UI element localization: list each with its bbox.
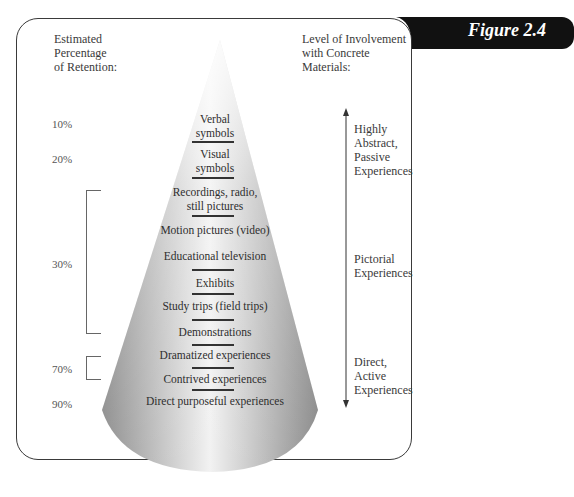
layer-visual-symbols: Visual symbols	[115, 147, 315, 175]
layer-label: Contrived experiences	[115, 372, 315, 386]
layer-label: symbols	[115, 161, 315, 175]
layer-label: Direct purposeful experiences	[95, 394, 335, 408]
retention-20: 20%	[52, 153, 72, 165]
layer-separator	[192, 389, 234, 391]
involvement-label: Highly	[354, 122, 413, 136]
layer-label: Verbal	[115, 112, 315, 126]
layer-label: Motion pictures (video)	[115, 223, 315, 237]
layer-dramatized: Dramatized experiences	[115, 348, 315, 362]
layer-label: Study trips (field trips)	[115, 299, 315, 313]
retention-70: 70%	[52, 363, 72, 375]
retention-30: 30%	[52, 258, 72, 270]
layer-separator	[192, 367, 234, 369]
layer-separator	[192, 319, 234, 321]
involvement-direct: Direct, Active Experiences	[354, 355, 413, 397]
involvement-label: Active	[354, 369, 413, 383]
layer-separator	[192, 215, 234, 217]
involvement-label: Passive	[354, 150, 413, 164]
layer-label: still pictures	[115, 199, 315, 213]
layer-separator	[192, 177, 234, 179]
involvement-label: Abstract,	[354, 136, 413, 150]
layer-motion-pictures: Motion pictures (video)	[115, 223, 315, 237]
layer-label: Educational television	[115, 249, 315, 263]
layer-separator	[192, 293, 234, 295]
layer-label: Demonstrations	[115, 325, 315, 339]
retention-10: 10%	[52, 118, 72, 130]
involvement-label: Experiences	[354, 383, 413, 397]
layer-label: Dramatized experiences	[115, 348, 315, 362]
layer-label: Exhibits	[115, 276, 315, 290]
layer-educational-television: Educational television	[115, 249, 315, 263]
retention-90: 90%	[52, 398, 72, 410]
involvement-label: Experiences	[354, 164, 413, 178]
arrow-down-icon	[343, 400, 349, 408]
retention-30-bracket	[86, 190, 101, 334]
layer-separator	[192, 141, 234, 143]
layer-recordings: Recordings, radio, still pictures	[115, 185, 315, 213]
arrow-up-icon	[343, 108, 349, 116]
layer-verbal-symbols: Verbal symbols	[115, 112, 315, 140]
retention-70-bracket	[86, 356, 101, 380]
involvement-abstract: Highly Abstract, Passive Experiences	[354, 122, 413, 178]
involvement-arrow	[340, 108, 352, 408]
layer-contrived: Contrived experiences	[115, 372, 315, 386]
layer-separator	[192, 269, 234, 271]
involvement-label: Experiences	[354, 266, 413, 280]
layer-demonstrations: Demonstrations	[115, 325, 315, 339]
layer-label: Recordings, radio,	[115, 185, 315, 199]
layer-exhibits: Exhibits	[115, 276, 315, 290]
layer-direct-purposeful: Direct purposeful experiences	[95, 394, 335, 408]
involvement-label: Pictorial	[354, 252, 413, 266]
layer-separator	[192, 344, 234, 346]
layer-label: Visual	[115, 147, 315, 161]
involvement-pictorial: Pictorial Experiences	[354, 252, 413, 280]
layer-label: symbols	[115, 126, 315, 140]
layer-study-trips: Study trips (field trips)	[115, 299, 315, 313]
involvement-label: Direct,	[354, 355, 413, 369]
